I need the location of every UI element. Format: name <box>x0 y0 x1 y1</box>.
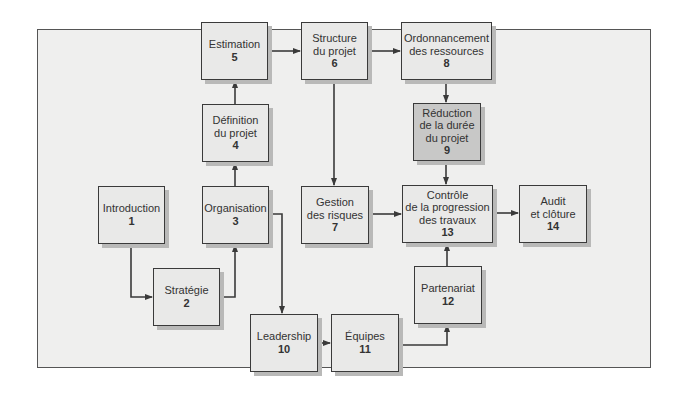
node-number: 7 <box>332 221 338 234</box>
node-label: Équipes <box>345 330 385 343</box>
node-number: 5 <box>231 51 237 64</box>
node-ordonnancement-des-ressources: Ordonnancement des ressources 8 <box>401 22 492 80</box>
node-equipes: Équipes 11 <box>331 314 399 372</box>
node-reduction-de-la-duree: Réduction de la durée du projet 9 <box>413 103 481 161</box>
node-number: 8 <box>443 57 449 70</box>
node-organisation: Organisation 3 <box>202 186 269 244</box>
node-label: Ordonnancement des ressources <box>404 32 489 57</box>
node-number: 1 <box>128 215 134 228</box>
node-number: 3 <box>232 215 238 228</box>
node-number: 4 <box>232 139 238 152</box>
node-label: Partenariat <box>421 282 475 295</box>
node-label: Leadership <box>257 330 311 343</box>
node-number: 13 <box>441 226 453 239</box>
node-introduction: Introduction 1 <box>98 186 165 244</box>
node-leadership: Leadership 10 <box>250 314 318 372</box>
node-number: 2 <box>183 297 189 310</box>
node-label: Estimation <box>209 38 260 51</box>
node-estimation: Estimation 5 <box>201 22 268 80</box>
node-number: 6 <box>331 57 337 70</box>
node-label: Audit et clôture <box>530 195 575 220</box>
node-label: Gestion des risques <box>307 196 363 221</box>
node-label: Structure du projet <box>312 32 357 57</box>
node-label: Définition du projet <box>213 114 259 139</box>
node-label: Contrôle de la progression des travaux <box>405 189 489 227</box>
node-partenariat: Partenariat 12 <box>414 266 482 324</box>
node-number: 10 <box>278 343 290 356</box>
node-label: Organisation <box>204 202 266 215</box>
node-definition-du-projet: Définition du projet 4 <box>202 104 269 162</box>
node-gestion-des-risques: Gestion des risques 7 <box>301 186 369 244</box>
node-label: Stratégie <box>164 284 208 297</box>
node-controle-de-la-progression: Contrôle de la progression des travaux 1… <box>402 185 493 243</box>
node-number: 12 <box>442 295 454 308</box>
node-number: 11 <box>359 343 371 356</box>
node-number: 9 <box>444 144 450 157</box>
node-number: 14 <box>547 220 559 233</box>
node-structure-du-projet: Structure du projet 6 <box>301 22 368 80</box>
node-label: Introduction <box>103 202 160 215</box>
node-strategie: Stratégie 2 <box>153 268 220 326</box>
node-label: Réduction de la durée du projet <box>419 107 474 145</box>
node-audit-et-cloture: Audit et clôture 14 <box>519 185 587 243</box>
